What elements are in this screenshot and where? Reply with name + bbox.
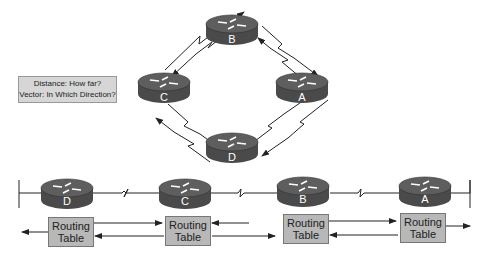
chain-router-d: D xyxy=(41,179,93,209)
svg-text:D: D xyxy=(63,195,71,207)
routing-table-label: Table xyxy=(58,232,84,244)
svg-text:A: A xyxy=(298,91,306,103)
chain-router-a: A xyxy=(399,177,451,207)
routing-table-d: Routing Table xyxy=(48,217,94,247)
routing-table-c: Routing Table xyxy=(165,216,211,246)
chain-router-b: B xyxy=(277,177,329,207)
routing-table-label: Routing xyxy=(169,219,207,231)
routing-table-label: Routing xyxy=(404,216,442,228)
router-b: B xyxy=(206,15,258,45)
svg-text:C: C xyxy=(181,195,189,207)
svg-text:D: D xyxy=(228,151,236,163)
router-d: D xyxy=(206,133,258,163)
router-c: C xyxy=(138,73,190,103)
legend-distance: Distance: How far? xyxy=(19,78,116,89)
routing-table-label: Routing xyxy=(52,220,90,232)
svg-text:B: B xyxy=(228,33,235,45)
svg-text:B: B xyxy=(299,193,306,205)
routing-table-label: Routing xyxy=(287,217,325,229)
routing-table-a: Routing Table xyxy=(400,213,446,243)
routing-table-b: Routing Table xyxy=(283,214,329,244)
svg-text:C: C xyxy=(160,91,168,103)
routing-table-label: Table xyxy=(410,228,436,240)
routing-table-label: Table xyxy=(293,229,319,241)
legend-vector: Vector: In Which Direction? xyxy=(19,89,116,100)
routing-table-label: Table xyxy=(175,231,201,243)
svg-text:A: A xyxy=(421,193,429,205)
router-a: A xyxy=(276,73,328,103)
legend-box: Distance: How far? Vector: In Which Dire… xyxy=(18,76,117,103)
chain-router-c: C xyxy=(159,179,211,209)
